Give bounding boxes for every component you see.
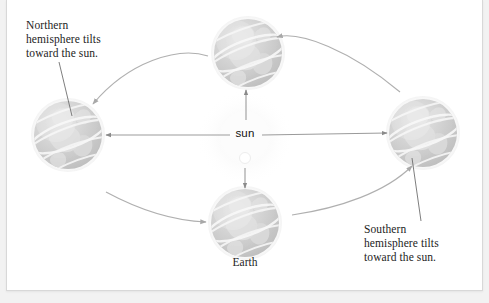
globe-left (21, 96, 116, 179)
globe-bottom (198, 184, 293, 267)
orbit-arc-bottom-right (292, 166, 412, 215)
orbit-arc-top-right (277, 36, 400, 92)
diagram-stage: Northern hemisphere tilts toward the sun… (0, 0, 489, 303)
sun-label: sun (215, 127, 275, 139)
globe-right (376, 94, 471, 177)
globe-top (201, 14, 296, 97)
orbit-arc-top-left (93, 53, 208, 104)
earth-label: Earth (212, 256, 278, 268)
orbit-arc-bottom-left (106, 192, 206, 222)
annotation-southern-hemisphere: Southern hemisphere tilts toward the sun… (364, 222, 482, 265)
annotation-northern-hemisphere: Northern hemisphere tilts toward the sun… (26, 18, 101, 61)
